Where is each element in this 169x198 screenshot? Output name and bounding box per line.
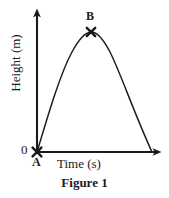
origin-tick-label: 0 <box>21 143 28 156</box>
trajectory-curve <box>37 32 152 152</box>
figure-caption: Figure 1 <box>0 176 169 189</box>
x-axis-title: Time (s) <box>57 157 101 170</box>
y-axis <box>33 9 41 153</box>
y-axis-title: Height (m) <box>9 15 27 111</box>
point-label-a: A <box>32 156 41 168</box>
x-axis <box>37 148 162 156</box>
figure-container: Height (m) Time (s) 0 A B Figure 1 <box>0 0 169 198</box>
point-label-b: B <box>86 10 94 22</box>
